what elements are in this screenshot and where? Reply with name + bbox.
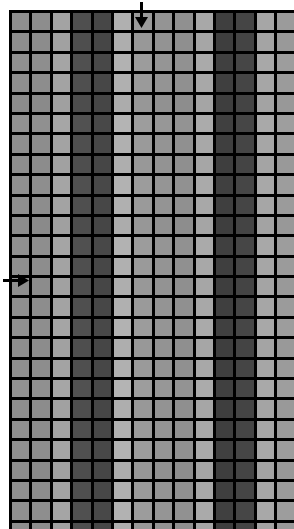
grid-cell	[32, 421, 49, 438]
grid-cell	[196, 298, 213, 315]
grid-cell	[175, 237, 192, 254]
grid-cell	[175, 74, 192, 91]
grid-cell	[94, 217, 111, 234]
grid-cell	[196, 502, 213, 519]
grid-cell	[12, 462, 29, 479]
grid-cell	[236, 156, 253, 173]
grid-cell	[73, 441, 90, 458]
grid-cell	[114, 278, 131, 295]
grid-cell	[196, 482, 213, 499]
grid-cell	[175, 421, 192, 438]
grid-cell	[236, 217, 253, 234]
grid-cell	[12, 197, 29, 214]
grid-frame	[9, 10, 294, 529]
grid-cell	[73, 339, 90, 356]
grid-cell	[32, 135, 49, 152]
grid-cell	[114, 482, 131, 499]
grid-cell	[196, 319, 213, 336]
grid-cell	[216, 298, 233, 315]
grid-cell	[196, 258, 213, 275]
grid-cell	[134, 278, 151, 295]
grid-cell	[32, 339, 49, 356]
grid-cell	[175, 135, 192, 152]
grid-cell	[12, 400, 29, 417]
grid-cell	[12, 421, 29, 438]
grid-cell	[94, 400, 111, 417]
grid-cell	[94, 54, 111, 71]
grid-cell	[175, 217, 192, 234]
grid-cell	[114, 115, 131, 132]
grid-cell	[236, 237, 253, 254]
grid-cell	[196, 360, 213, 377]
grid-cell	[94, 258, 111, 275]
grid-cell	[53, 115, 70, 132]
grid-cell	[175, 95, 192, 112]
grid-cell	[53, 482, 70, 499]
grid-cell	[53, 33, 70, 50]
grid-cell	[53, 197, 70, 214]
grid-cell	[32, 441, 49, 458]
grid-cell	[257, 156, 274, 173]
grid-cell	[73, 115, 90, 132]
grid-cell	[73, 502, 90, 519]
grid-cell	[114, 462, 131, 479]
grid-cell	[94, 197, 111, 214]
grid-cell	[114, 400, 131, 417]
grid-cell	[73, 380, 90, 397]
grid-cell	[155, 298, 172, 315]
grid-cell	[155, 156, 172, 173]
grid-cell	[114, 95, 131, 112]
grid-cell	[12, 74, 29, 91]
grid-cell	[196, 176, 213, 193]
grid-cell	[155, 54, 172, 71]
grid-cell	[53, 298, 70, 315]
grid-cell	[155, 135, 172, 152]
grid-cell	[277, 156, 294, 173]
grid-cell	[12, 237, 29, 254]
grid-cell	[216, 74, 233, 91]
grid-cell	[216, 400, 233, 417]
grid-cell	[155, 523, 172, 529]
top-column-indicator	[135, 2, 148, 28]
grid-cell	[216, 462, 233, 479]
grid-cell	[12, 482, 29, 499]
grid-cell	[53, 176, 70, 193]
grid-cell	[73, 176, 90, 193]
grid-cell	[155, 258, 172, 275]
grid-cell	[196, 156, 213, 173]
grid-cell	[277, 33, 294, 50]
grid-cell	[134, 197, 151, 214]
grid-cell	[196, 13, 213, 30]
grid-cell	[53, 339, 70, 356]
grid-cell	[94, 176, 111, 193]
grid-cell	[155, 13, 172, 30]
grid-cell	[175, 13, 192, 30]
grid-cell	[32, 462, 49, 479]
grid-cell	[32, 13, 49, 30]
grid-cell	[114, 13, 131, 30]
grid-cell	[134, 156, 151, 173]
grid-cell	[94, 298, 111, 315]
grid-cell	[134, 360, 151, 377]
grid-cell	[12, 319, 29, 336]
grid-cell	[94, 74, 111, 91]
grid-cell	[216, 33, 233, 50]
grid-cell	[155, 74, 172, 91]
grid-cell	[94, 482, 111, 499]
grid-cell	[196, 135, 213, 152]
grid-cell	[257, 441, 274, 458]
grid-cell	[155, 400, 172, 417]
grid-cell	[236, 380, 253, 397]
grid-cell	[155, 33, 172, 50]
grid-cell	[32, 54, 49, 71]
grid-cell	[277, 319, 294, 336]
grid-cell	[73, 197, 90, 214]
grid-cell	[73, 74, 90, 91]
grid-cell	[32, 33, 49, 50]
grid-cell	[257, 74, 274, 91]
grid-cell	[53, 74, 70, 91]
grid-cell	[216, 13, 233, 30]
grid-cell	[53, 421, 70, 438]
grid-cell	[236, 462, 253, 479]
grid-cell	[94, 462, 111, 479]
